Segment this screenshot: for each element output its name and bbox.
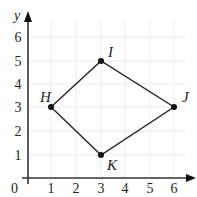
x-tick-label: 3 (98, 181, 105, 196)
x-tick-label: 4 (122, 181, 129, 196)
x-tick-label: 5 (147, 181, 154, 196)
y-axis-arrow-icon (24, 11, 32, 22)
y-tick-label: 4 (15, 77, 22, 92)
y-tick-label: 3 (15, 100, 22, 115)
x-tick-labels: 1 2 3 4 5 6 (48, 181, 178, 196)
origin-label: 0 (11, 181, 18, 196)
y-tick-label: 6 (15, 30, 22, 45)
point-label-i: I (107, 44, 114, 60)
vertices (48, 58, 177, 158)
y-tick-labels: 1 2 3 4 5 6 (15, 30, 22, 163)
point-label-j: J (182, 89, 190, 105)
x-axis-arrow-icon (186, 174, 196, 182)
coordinate-plane: y 0 1 2 3 4 5 6 1 2 3 4 5 6 H I J K (0, 0, 197, 197)
y-tick-label: 2 (15, 124, 22, 139)
x-tick-label: 1 (48, 181, 55, 196)
point-k (98, 152, 104, 158)
point-label-k: K (106, 157, 118, 173)
y-axis-label: y (12, 8, 21, 23)
point-i (98, 58, 104, 64)
point-label-h: H (39, 89, 52, 105)
quadrilateral-hijk (51, 61, 174, 155)
y-tick-label: 1 (15, 148, 22, 163)
x-tick-label: 2 (73, 181, 80, 196)
y-tick-label: 5 (15, 54, 22, 69)
x-tick-label: 6 (171, 181, 178, 196)
point-j (171, 104, 177, 110)
